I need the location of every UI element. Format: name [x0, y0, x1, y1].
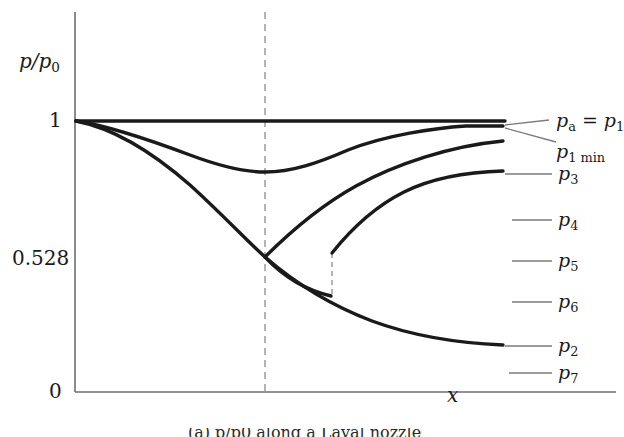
legend-p7-sub: 7 — [570, 371, 578, 386]
legend-p6-p: p — [558, 290, 570, 312]
y-tick-label-0: 0 — [49, 381, 62, 401]
legend-pa-p1-p: p — [556, 109, 568, 131]
y-axis-label-subscript: 0 — [51, 59, 60, 75]
legend-label-p3: p3 — [558, 164, 578, 183]
x-axis-label: x — [447, 385, 458, 405]
legend-pa-p1-tail-sub: 1 — [616, 119, 624, 134]
legend-p2-p: p — [558, 334, 570, 356]
legend-label-p4: p4 — [558, 210, 578, 229]
y-axis-label: p/p0 — [19, 51, 60, 71]
legend-leader-p1min — [505, 128, 556, 142]
legend-p7-p: p — [558, 361, 570, 383]
legend-label-p7: p7 — [558, 363, 578, 382]
legend-label-p5: p5 — [558, 251, 578, 270]
legend-p3-p: p — [558, 162, 570, 184]
curve-throat-subsonic-branch — [265, 141, 503, 257]
legend-label-p6: p6 — [558, 292, 578, 311]
legend-p4-sub: 4 — [570, 218, 578, 233]
legend-pa-p1-sub: a — [568, 119, 576, 134]
legend-pa-p1-tail: = p — [576, 109, 616, 131]
legend-label-pa-p1: pa = p1 — [556, 111, 624, 130]
y-axis-label-text: p/p — [19, 49, 51, 73]
legend-p3-sub: 3 — [570, 172, 578, 187]
legend-label-p2: p2 — [558, 336, 578, 355]
legend-label-p1min: p1 min — [556, 142, 605, 161]
y-tick-label-1: 1 — [49, 110, 62, 130]
legend-p6-sub: 6 — [570, 300, 578, 315]
figure-caption-clip: (a) p/p0 along a Laval nozzle — [0, 428, 616, 437]
legend-leader-pa-p1 — [505, 120, 549, 125]
legend-p1min-p: p — [556, 140, 568, 162]
legend-p1min-sub: 1 min — [568, 150, 605, 165]
legend-p4-p: p — [558, 208, 570, 230]
curve-p3-supersonic-segment — [265, 257, 331, 296]
y-tick-label-0528: 0.528 — [12, 248, 69, 268]
legend-p5-p: p — [558, 249, 570, 271]
figure-caption: (a) p/p0 along a Laval nozzle — [188, 428, 421, 437]
legend-p2-sub: 2 — [570, 344, 578, 359]
legend-p5-sub: 5 — [570, 259, 578, 274]
